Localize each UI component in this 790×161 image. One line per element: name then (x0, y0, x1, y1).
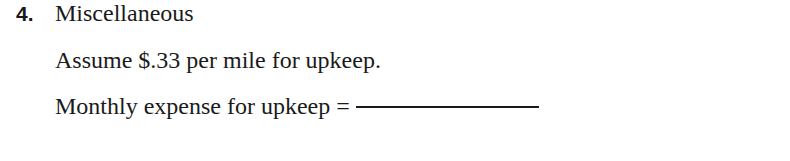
expense-prompt-row: Monthly expense for upkeep = (55, 93, 539, 120)
answer-blank[interactable] (356, 105, 539, 108)
assumption-text: Assume $.33 per mile for upkeep. (55, 47, 381, 74)
section-heading: Miscellaneous (55, 0, 194, 27)
item-number: 4. (16, 2, 34, 26)
expense-prompt: Monthly expense for upkeep = (55, 93, 350, 119)
